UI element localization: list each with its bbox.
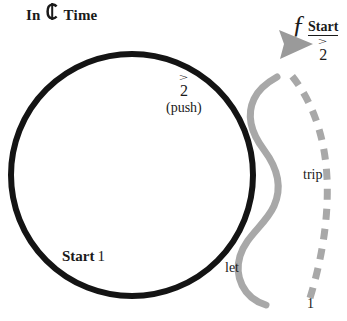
start-one-number: 1 bbox=[98, 248, 106, 264]
accent-mark-icon: > bbox=[179, 75, 188, 81]
diagram-artwork bbox=[0, 0, 347, 321]
solid-gray-s-curve bbox=[238, 77, 278, 305]
main-loop-circle bbox=[11, 54, 253, 296]
push-accent-beat: > 2 bbox=[180, 74, 188, 99]
dashed-gray-arc bbox=[292, 76, 327, 298]
diagram-canvas: In Time > 2 (push) Start1 ƒ Start > 2 tr… bbox=[0, 0, 347, 321]
start-one-word: Start bbox=[62, 248, 95, 264]
page-title: In Time bbox=[26, 3, 97, 23]
start-two-accent-beat: > 2 bbox=[319, 38, 327, 63]
push-note-text: (push) bbox=[166, 101, 202, 115]
start-two-word: Start bbox=[308, 19, 338, 36]
let-label: let bbox=[225, 261, 239, 275]
accent-mark-icon: > bbox=[319, 39, 328, 45]
start-two-beat-number: 2 bbox=[319, 47, 327, 63]
title-suffix: Time bbox=[64, 8, 98, 23]
start-one-label: Start1 bbox=[62, 249, 105, 264]
push-beat-number: 2 bbox=[180, 83, 188, 99]
push-label: > 2 (push) bbox=[166, 74, 202, 115]
cut-time-symbol-icon bbox=[46, 3, 59, 20]
trip-label: trip bbox=[303, 168, 322, 182]
script-f-symbol: ƒ bbox=[292, 12, 305, 38]
title-prefix: In bbox=[26, 8, 41, 23]
start-two-label: Start > 2 bbox=[308, 19, 338, 63]
one-label: 1 bbox=[307, 297, 314, 311]
